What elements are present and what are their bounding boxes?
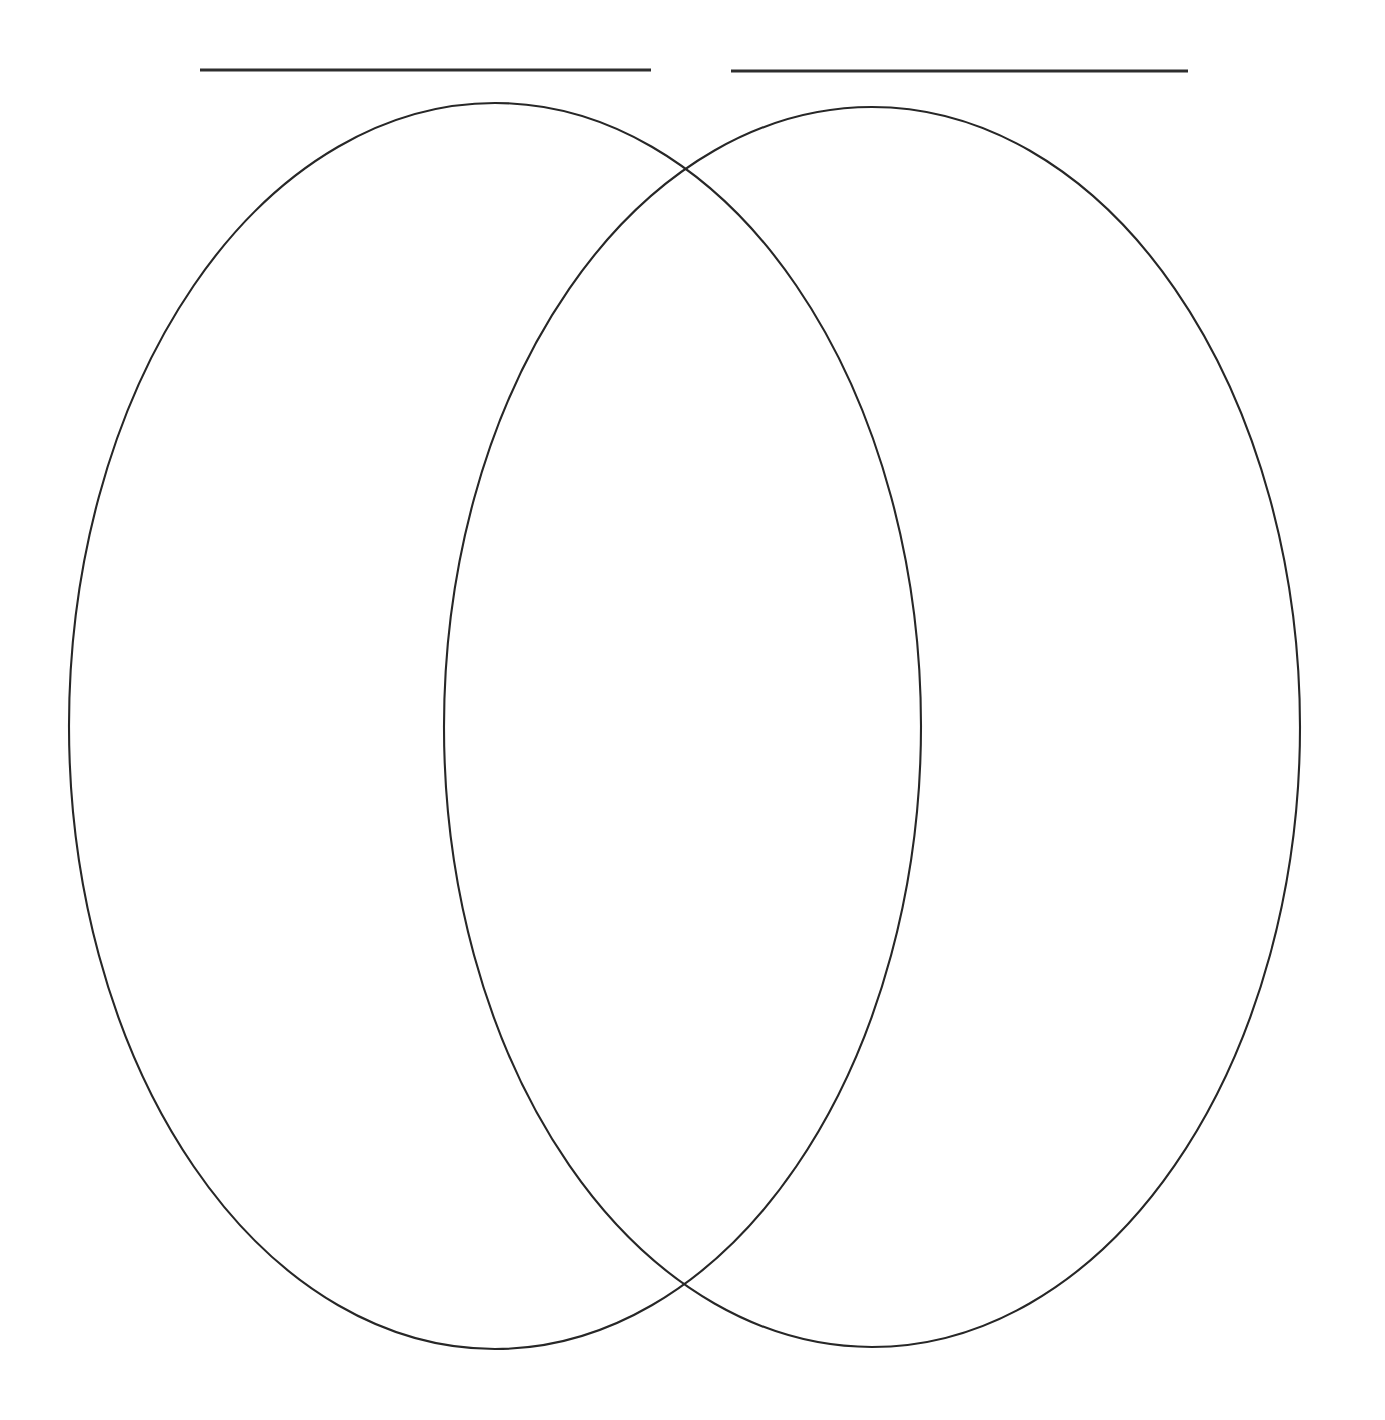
left-only-region[interactable] bbox=[110, 330, 440, 1130]
intersection-region[interactable] bbox=[450, 250, 918, 1210]
worksheet-page bbox=[0, 0, 1385, 1420]
right-title-field[interactable] bbox=[731, 29, 1188, 67]
right-only-region[interactable] bbox=[928, 330, 1258, 1130]
left-title-field[interactable] bbox=[200, 28, 651, 66]
